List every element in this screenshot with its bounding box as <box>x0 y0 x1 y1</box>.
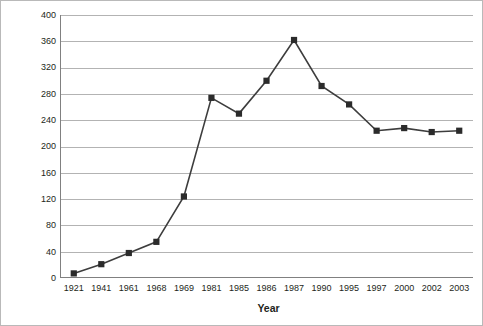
data-point-2003 <box>456 128 462 134</box>
data-point-1968 <box>153 239 159 245</box>
data-point-markers <box>71 37 463 277</box>
data-point-1990 <box>318 83 324 89</box>
gridlines <box>60 16 473 279</box>
data-line-series-1 <box>74 40 459 273</box>
data-point-1995 <box>346 101 352 107</box>
y-tick-120: 120 <box>30 194 56 205</box>
data-point-1961 <box>126 250 132 256</box>
y-tick-200: 200 <box>30 141 56 152</box>
data-point-1969 <box>181 193 187 199</box>
y-tick-0: 0 <box>30 273 56 284</box>
y-tick-80: 80 <box>30 220 56 231</box>
y-tick-320: 320 <box>30 62 56 73</box>
plot-area <box>60 15 473 278</box>
data-point-2002 <box>429 129 435 135</box>
y-tick-160: 160 <box>30 168 56 179</box>
data-point-1985 <box>236 111 242 117</box>
y-tick-280: 280 <box>30 89 56 100</box>
data-point-1997 <box>374 128 380 134</box>
x-axis-tick-labels: 1921194119611968196919811985198619871990… <box>60 282 473 296</box>
y-tick-400: 400 <box>30 10 56 21</box>
data-point-1986 <box>263 78 269 84</box>
data-point-1941 <box>98 261 104 267</box>
x-tick-2003: 2003 <box>439 282 479 295</box>
data-point-1981 <box>208 95 214 101</box>
chart-figure: Divorces per 100,000 400 360 320 280 240… <box>0 0 483 326</box>
data-point-1987 <box>291 37 297 43</box>
data-point-2000 <box>401 125 407 131</box>
axis-lines <box>60 15 473 278</box>
y-axis-tick-labels: 400 360 320 280 240 200 160 120 80 40 0 <box>25 1 56 326</box>
y-tick-240: 240 <box>30 115 56 126</box>
y-tick-360: 360 <box>30 36 56 47</box>
line-chart-svg <box>60 15 473 278</box>
data-point-1921 <box>71 270 77 276</box>
y-tick-40: 40 <box>30 247 56 258</box>
x-axis-title: Year <box>61 302 476 314</box>
